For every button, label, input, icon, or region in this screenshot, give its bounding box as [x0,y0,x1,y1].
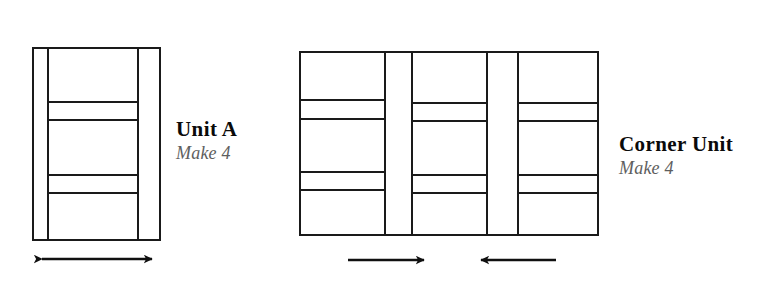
unit-a-subtitle: Make 4 [176,143,237,164]
unit-a-outer-rect [33,48,160,240]
unit-a-label-group: Unit A Make 4 [176,118,237,164]
corner-unit-label-group: Corner Unit Make 4 [619,133,733,179]
unit-a-block [33,48,160,240]
corner-unit-block [300,52,598,235]
corner-unit-subtitle: Make 4 [619,158,733,179]
quilt-diagram-root: Unit A Make 4 Corner Unit Make 4 [0,0,766,284]
corner-unit-outer-rect [300,52,598,235]
unit-a-title: Unit A [176,118,237,141]
corner-unit-title: Corner Unit [619,133,733,156]
